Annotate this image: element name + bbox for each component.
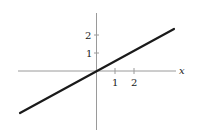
x-axis-label: x [179, 65, 185, 76]
x-tick-label-1: 1 [112, 77, 118, 88]
chart-canvas: 1 2 1 2 x [0, 0, 197, 132]
y-tick-label-1: 1 [86, 48, 92, 59]
x-tick-label-2: 2 [131, 77, 137, 88]
y-tick-label-2: 2 [85, 30, 91, 41]
